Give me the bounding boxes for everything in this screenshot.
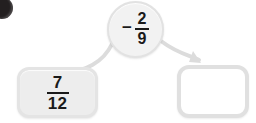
left-denominator: 12 xyxy=(48,94,67,112)
left-term-box[interactable]: 7 12 xyxy=(17,67,98,118)
operator-circle: − 2 9 xyxy=(107,1,164,58)
left-fraction: 7 12 xyxy=(47,74,69,112)
left-numerator: 7 xyxy=(53,74,63,92)
operator-fraction: 2 9 xyxy=(135,11,149,47)
operator-numerator: 2 xyxy=(137,11,146,28)
answer-box[interactable] xyxy=(177,65,249,118)
minus-sign-icon: − xyxy=(122,19,132,36)
worksheet-diagram: − 2 9 7 12 xyxy=(0,0,256,123)
operator-denominator: 9 xyxy=(137,30,146,47)
